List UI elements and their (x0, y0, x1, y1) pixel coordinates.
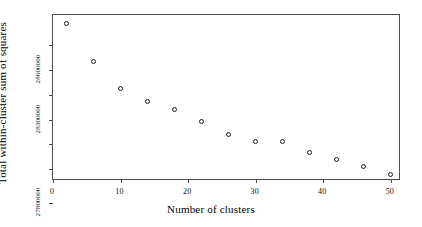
data-point (307, 150, 312, 155)
x-tick-label: 50 (386, 187, 394, 196)
y-tick-mark (49, 120, 53, 121)
y-tick-mark-minor (49, 169, 53, 170)
x-tick-label: 10 (115, 187, 123, 196)
data-point (334, 157, 339, 162)
x-tick-mark (53, 179, 54, 183)
y-tick-mark (49, 70, 53, 71)
data-point (91, 59, 96, 64)
x-tick-mark (188, 179, 189, 183)
data-point (172, 107, 177, 112)
x-tick-label: 20 (183, 187, 191, 196)
x-tick-label: 30 (251, 187, 259, 196)
plot-frame (52, 14, 400, 180)
y-tick-label: 28300000 (34, 104, 42, 133)
data-point (388, 172, 393, 177)
y-tick-mark-minor (49, 95, 53, 96)
y-axis-title: Total within-cluster sum of squares (0, 22, 8, 184)
data-point (118, 86, 123, 91)
x-tick-mark (121, 179, 122, 183)
x-tick-mark (323, 179, 324, 183)
x-tick-label: 0 (50, 187, 54, 196)
x-tick-mark (256, 179, 257, 183)
data-point (361, 164, 366, 169)
data-point (64, 21, 69, 26)
data-point (199, 119, 204, 124)
data-point (253, 139, 258, 144)
x-tick-label: 40 (318, 187, 326, 196)
y-tick-label: 28600000 (34, 54, 42, 83)
data-point (226, 132, 231, 137)
x-tick-mark (391, 179, 392, 183)
x-axis-title: Number of clusters (0, 203, 422, 215)
y-tick-mark-minor (49, 45, 53, 46)
plot-area (53, 15, 399, 179)
data-point (145, 99, 150, 104)
data-point (280, 139, 285, 144)
elbow-plot: 01020304050 286000002830000027800000 Num… (0, 0, 422, 227)
y-tick-mark-minor (49, 144, 53, 145)
